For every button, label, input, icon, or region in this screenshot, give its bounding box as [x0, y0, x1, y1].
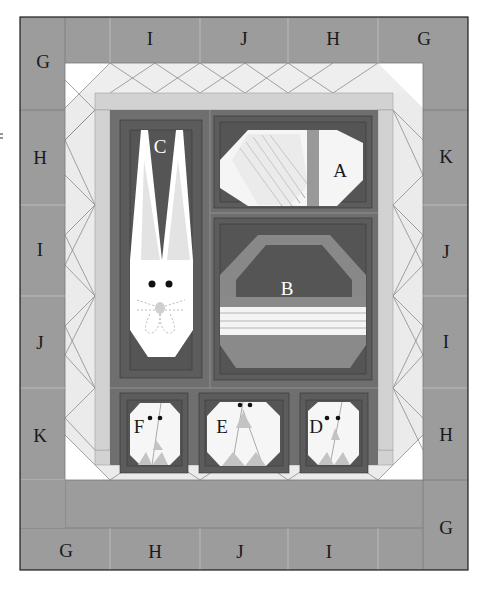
basket-base: [220, 335, 366, 368]
block-f-chick: F: [120, 393, 188, 473]
border-label: J: [442, 241, 449, 262]
border-label: G: [59, 540, 73, 561]
border-label: J: [236, 541, 243, 562]
border-label: H: [33, 147, 47, 168]
border-label: H: [439, 424, 453, 445]
border-label: G: [36, 51, 50, 72]
block-label-f: F: [134, 416, 145, 437]
border-label: I: [37, 239, 43, 260]
block-c-bunny: C: [120, 120, 202, 378]
border-label: H: [148, 541, 162, 562]
border-label: J: [36, 332, 43, 353]
border-label: G: [439, 517, 453, 538]
border-label: H: [326, 28, 340, 49]
quilt-diagram: C A B: [0, 0, 480, 593]
block-e-chick: E: [199, 393, 289, 473]
block-label-a: A: [333, 160, 347, 181]
block-b-basket: B: [214, 218, 372, 380]
border-label: K: [33, 425, 47, 446]
block-a-egg: A: [214, 116, 372, 208]
block-label-e: E: [216, 416, 228, 437]
border-label: I: [326, 541, 332, 562]
border-label: G: [417, 28, 431, 49]
block-label-d: D: [309, 416, 323, 437]
border-label: K: [439, 146, 453, 167]
border-label: J: [240, 28, 247, 49]
block-label-c: C: [154, 136, 167, 157]
block-label-b: B: [281, 278, 294, 299]
bunny-eye-right: [166, 281, 173, 288]
egg-stripe: [307, 130, 319, 206]
border-label: I: [443, 331, 449, 352]
bunny-eye-left: [149, 281, 156, 288]
block-d-chick: D: [300, 393, 368, 473]
border-label: I: [147, 28, 153, 49]
edge-artifact: [0, 127, 4, 135]
